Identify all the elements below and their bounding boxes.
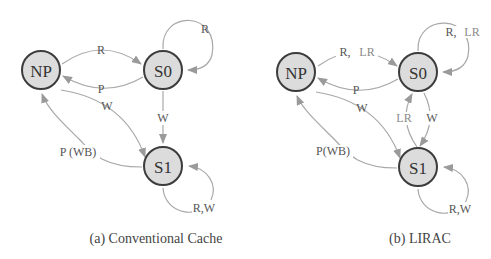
svg-text:S0: S0	[409, 64, 427, 83]
edge-label-s0-s1: W	[157, 111, 169, 125]
edge-label-np-s0: R	[97, 43, 105, 57]
state-node-s1: S1	[399, 148, 437, 186]
svg-text:S1: S1	[154, 158, 172, 177]
edge-label-s1-np: P(WB)	[316, 144, 350, 158]
caption-a: (a) Conventional Cache	[90, 231, 223, 247]
state-node-s0: S0	[144, 51, 182, 89]
edge-label-s0-self: R	[201, 22, 209, 36]
edge-label-s1-np: P (WB)	[60, 145, 97, 159]
edge-label-np-s0-lr: LR	[359, 45, 374, 59]
edge-label-s0-np: P	[353, 83, 360, 97]
edge-label-s1-self: R,W	[449, 202, 472, 216]
edge-label-s0-np: P	[98, 82, 105, 96]
diagram-lirac: R, LR P R, LR W W LR P(WB) R,W NP	[277, 23, 483, 247]
caption-b: (b) LIRAC	[389, 231, 451, 247]
svg-text:S0: S0	[154, 62, 172, 81]
edge-label-s0-self-r: R,	[445, 25, 456, 39]
edge-label-s0-self-lr: LR	[464, 25, 479, 39]
edge-label-np-s1: W	[101, 99, 113, 113]
edge-label-np-s0-r: R,	[339, 45, 350, 59]
diagram-conventional-cache: R P R W W P (WB) R,W NP S0	[22, 20, 222, 247]
state-node-s1: S1	[144, 147, 182, 185]
state-node-np: NP	[277, 53, 315, 91]
state-node-s0: S0	[399, 53, 437, 91]
svg-text:S1: S1	[409, 159, 427, 178]
state-diagrams: R P R W W P (WB) R,W NP S0	[0, 0, 491, 259]
edge-label-np-s1: W	[356, 101, 368, 115]
edge-label-s1-self: R,W	[193, 201, 216, 215]
svg-text:NP: NP	[285, 64, 307, 83]
edge-label-s1-s0: LR	[396, 111, 411, 125]
edge-label-s0-s1: W	[426, 111, 438, 125]
svg-text:NP: NP	[30, 62, 52, 81]
state-node-np: NP	[22, 51, 60, 89]
